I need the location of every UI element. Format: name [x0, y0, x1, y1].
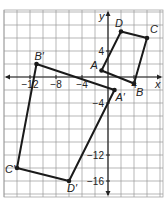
vertex-point: [119, 29, 124, 34]
vertex-label: A: [90, 59, 98, 71]
vertex-label: B: [136, 86, 143, 98]
vertex-point: [15, 166, 20, 171]
vertex-point: [34, 62, 39, 67]
x-tick-label: −12: [22, 79, 39, 90]
y-tick-label: −4: [93, 98, 105, 109]
vertex-label: C: [150, 23, 158, 35]
y-tick-label: 4: [98, 46, 104, 57]
y-tick-label: −12: [87, 150, 104, 161]
vertex-label: D: [115, 17, 123, 29]
x-tick-label: −4: [76, 79, 88, 90]
vertex-label: B′: [35, 50, 45, 62]
y-tick-label: −16: [87, 176, 104, 187]
vertex-point: [145, 36, 150, 41]
x-tick-label: −8: [50, 79, 62, 90]
vertex-label: A′: [115, 91, 126, 103]
grid-lines: [4, 10, 163, 197]
coordinate-plane: xy−12−8−444−4−12−16ABCDA′B′C′D′: [0, 0, 167, 206]
vertex-label: D′: [67, 182, 78, 194]
vertex-label: C′: [5, 163, 16, 175]
x-axis-left-arrow-icon: [5, 75, 10, 80]
y-axis-down-arrow-icon: [106, 191, 111, 196]
vertex-point: [99, 68, 104, 73]
x-axis-label: x: [154, 78, 161, 90]
